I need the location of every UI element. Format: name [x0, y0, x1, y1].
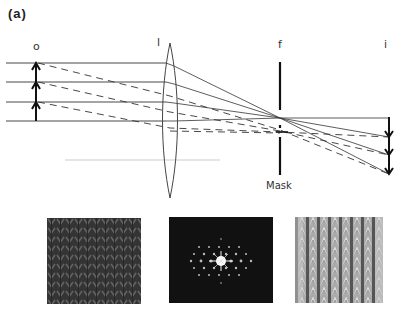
object-arrow [32, 63, 40, 121]
filtered-image [295, 217, 383, 303]
dashed-rays [38, 63, 389, 174]
parallel-rays [6, 63, 166, 121]
image-arrow [385, 117, 393, 174]
diffraction-pattern-image [169, 217, 273, 303]
refracted-rays [166, 63, 389, 174]
object-pattern-image [47, 218, 141, 304]
